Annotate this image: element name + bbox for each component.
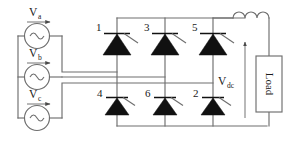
thyristor-6-label: 6 <box>145 87 151 99</box>
thyristor-4 <box>105 98 135 116</box>
source-b-label-subscript: b <box>38 53 42 62</box>
load: Load <box>256 56 282 112</box>
source-b <box>25 65 63 90</box>
source-a <box>25 24 63 49</box>
source-c-label: V c <box>27 88 50 104</box>
thyristor-6 <box>153 98 183 116</box>
thyristor-1-label: 1 <box>96 21 102 33</box>
inductor <box>233 12 269 18</box>
vdc-label-subscript: dc <box>227 81 235 90</box>
thyristor-3-label: 3 <box>144 21 150 33</box>
phase-c-line <box>62 83 213 118</box>
source-a-label: V a <box>27 6 50 22</box>
thyristor-1 <box>103 34 138 56</box>
source-c-label-text: V <box>29 88 38 100</box>
thyristor-2-label: 2 <box>193 87 199 99</box>
circuit-diagram: V a V b V c <box>0 0 287 144</box>
thyristor-5 <box>199 34 234 56</box>
load-label: Load <box>264 73 276 96</box>
thyristor-5-label: 5 <box>192 21 198 33</box>
source-a-label-subscript: a <box>38 12 42 21</box>
vdc-label-text: V <box>218 75 227 87</box>
source-b-label: V b <box>27 47 50 63</box>
source-b-label-text: V <box>29 47 38 59</box>
source-c-label-subscript: c <box>38 94 42 103</box>
thyristor-4-label: 4 <box>97 87 103 99</box>
thyristor-2 <box>201 98 231 116</box>
source-a-label-text: V <box>29 6 38 18</box>
source-c <box>25 106 63 131</box>
vdc-label: V dc <box>218 75 235 90</box>
thyristor-3 <box>151 34 186 56</box>
